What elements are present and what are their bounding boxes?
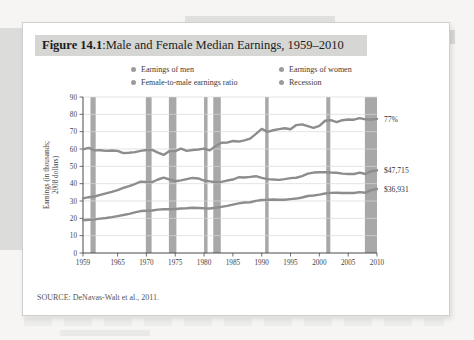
earnings-line-chart: 0102030405060708090195919651970197519801… (35, 91, 439, 287)
x-tick-label: 1965 (110, 259, 125, 267)
page-bottom-smudge (60, 330, 150, 336)
page-bottom-strip (24, 318, 444, 326)
x-tick-label: 1990 (255, 259, 270, 267)
recession-band (204, 97, 207, 253)
y-axis-title-line: 2008 dollars) (52, 155, 60, 194)
chart-area: 0102030405060708090195919651970197519801… (35, 91, 439, 287)
legend-label: Earnings of men (141, 65, 194, 74)
legend-item-earnings-of-women: Earnings of women (279, 63, 401, 76)
figure-card: Figure 14.1: Male and Female Median Earn… (22, 22, 450, 316)
x-tick-label: 2000 (312, 259, 327, 267)
recession-band (90, 97, 95, 253)
recession-band (213, 97, 220, 253)
recession-band (265, 97, 268, 253)
figure-number: Figure 14.1 (42, 38, 102, 53)
series-end-label: $47,715 (384, 166, 409, 175)
y-tick-label: 80 (70, 111, 78, 119)
legend-marker-icon (279, 67, 284, 72)
series-end-label: 77% (384, 115, 399, 124)
chart-legend: Earnings of men Earnings of women Female… (131, 63, 401, 89)
y-tick-label: 60 (70, 146, 78, 154)
y-tick-label: 0 (73, 250, 77, 258)
legend-marker-icon (131, 80, 136, 85)
legend-label: Earnings of women (289, 65, 352, 74)
figure-title-text: Male and Female Median Earnings, 1959–20… (106, 38, 344, 53)
x-tick-label: 1975 (168, 259, 183, 267)
legend-label: Recession (289, 78, 321, 87)
y-tick-label: 90 (70, 94, 78, 102)
series-end-label: $36,931 (384, 185, 409, 194)
x-tick-label: 1959 (76, 259, 91, 267)
y-tick-label: 10 (70, 232, 78, 240)
y-tick-label: 50 (70, 163, 78, 171)
series-line (83, 189, 377, 220)
legend-marker-icon (131, 67, 136, 72)
x-tick-label: 2010 (370, 259, 385, 267)
figure-title-band: Figure 14.1: Male and Female Median Earn… (35, 35, 367, 56)
recession-band (146, 97, 152, 253)
legend-item-female-to-male-ratio: Female-to-male earnings ratio (131, 76, 279, 89)
legend-label: Female-to-male earnings ratio (141, 78, 237, 87)
recession-band (169, 97, 176, 253)
series-line (83, 118, 377, 155)
y-tick-label: 40 (70, 180, 78, 188)
legend-item-earnings-of-men: Earnings of men (131, 63, 279, 76)
x-tick-label: 1995 (283, 259, 298, 267)
series-line (83, 170, 377, 198)
x-tick-label: 1980 (197, 259, 212, 267)
legend-item-recession: Recession (279, 76, 401, 89)
page-edge-strip (0, 28, 22, 250)
figure-source: SOURCE: DeNavas-Walt et al., 2011. (37, 293, 159, 302)
x-tick-label: 1970 (139, 259, 154, 267)
y-tick-label: 30 (70, 198, 78, 206)
y-tick-label: 20 (70, 215, 78, 223)
y-tick-label: 70 (70, 128, 78, 136)
x-tick-label: 2005 (341, 259, 356, 267)
legend-marker-icon (279, 80, 284, 85)
y-axis-title-line: Earnings (in thousands; (43, 141, 51, 209)
x-tick-label: 1985 (226, 259, 241, 267)
